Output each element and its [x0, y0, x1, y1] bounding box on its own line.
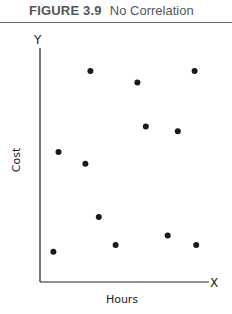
data-point — [82, 161, 88, 167]
x-axis-label: Hours — [106, 293, 138, 306]
x-axis-letter: X — [210, 276, 218, 290]
data-point — [96, 214, 102, 220]
data-point — [134, 80, 140, 86]
data-point — [165, 233, 171, 239]
data-point — [143, 124, 149, 130]
data-point — [113, 242, 119, 248]
data-point — [192, 68, 198, 74]
data-point — [56, 149, 62, 155]
data-point — [175, 128, 181, 134]
data-point — [193, 242, 199, 248]
data-point — [87, 68, 93, 74]
y-axis-label: Cost — [10, 147, 23, 172]
y-axis-letter: Y — [33, 33, 42, 47]
data-point — [50, 249, 56, 255]
scatter-plot: Y X Hours Cost — [0, 0, 232, 314]
data-points — [50, 68, 199, 255]
